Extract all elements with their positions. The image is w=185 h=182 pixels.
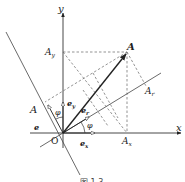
angle-phi-x-label: φ [87,121,93,130]
vector-A [63,54,126,133]
projection-Ay-label: Ay [44,47,56,59]
figure-caption: 图 1.3 [80,178,103,182]
projection-Ax-label: Ax [121,136,133,147]
x-axis-label: x [176,122,182,133]
angle-phi-y-label: φ [55,108,61,117]
unit-vector-ex-label: ex [80,138,89,149]
origin-label: O [51,136,58,146]
unit-vector-ey-label: ey [67,98,76,110]
projection-Ar-label: Ar [144,86,156,97]
point-A-label: A [126,41,135,52]
y-axis-label: y [57,3,64,14]
unit-vector-er [63,117,89,133]
projection-Aperp-label: A [29,104,37,115]
angle-arc-x [81,122,85,133]
angle-arc-y [56,117,63,119]
vector-diagram: y x O A Ay Ax Ar A ex ey er e φ φ 图 1.3 [0,0,185,182]
unit-vector-er-label: er [81,105,90,116]
unit-vector-eperp-label: e [34,122,39,132]
